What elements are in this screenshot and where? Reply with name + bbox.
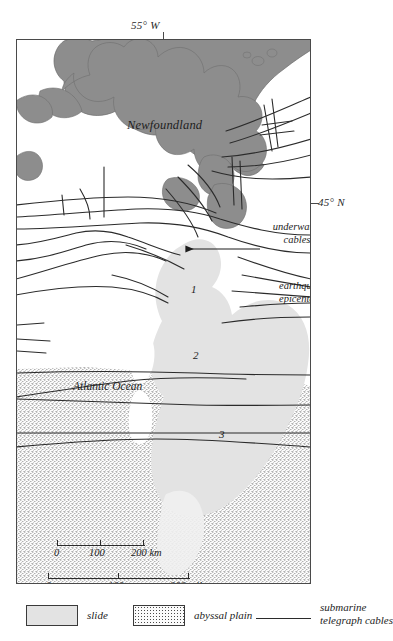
region-marker-3: 3 bbox=[219, 428, 225, 440]
longitude-label-top: 55° W bbox=[131, 19, 160, 31]
legend-label-line-1: submarine bbox=[320, 601, 393, 614]
scale-mi-tick-200: 200 miles bbox=[170, 580, 211, 584]
scale-km-tick-100: 100 bbox=[89, 547, 105, 558]
scale-km-tick-0: 0 bbox=[54, 547, 59, 558]
legend-item-abyssal-plain: abyssal plain bbox=[133, 605, 252, 626]
legend: slide abyssal plain submarine telegraph … bbox=[26, 600, 346, 634]
latitude-tick-right bbox=[311, 203, 319, 204]
scale-bar-miles: 0 100 200 miles bbox=[48, 578, 190, 584]
legend-swatch-abyssal-plain bbox=[133, 605, 185, 626]
legend-label-submarine-cables: submarine telegraph cables bbox=[320, 601, 393, 626]
scale-bar-km: 0 100 200 km bbox=[57, 545, 145, 561]
legend-swatch-cable-line bbox=[256, 618, 311, 619]
legend-label-line-2: telegraph cables bbox=[320, 614, 393, 627]
legend-swatch-slide bbox=[26, 605, 78, 626]
region-marker-1: 1 bbox=[191, 283, 197, 295]
latitude-label-right: 45° N bbox=[318, 196, 345, 208]
legend-label-abyssal-plain: abyssal plain bbox=[194, 609, 252, 622]
map-frame: Newfoundland Atlantic Ocean underwater c… bbox=[16, 39, 311, 584]
legend-item-submarine-cables: submarine telegraph cables bbox=[256, 601, 393, 626]
map-canvas bbox=[16, 39, 311, 584]
scale-mi-tick-100: 100 bbox=[108, 580, 124, 584]
legend-label-slide: slide bbox=[87, 609, 108, 622]
region-marker-2: 2 bbox=[193, 349, 199, 361]
scale-mi-tick-0: 0 bbox=[46, 580, 51, 584]
legend-item-slide: slide bbox=[26, 605, 108, 626]
scale-km-tick-200: 200 km bbox=[131, 547, 162, 558]
